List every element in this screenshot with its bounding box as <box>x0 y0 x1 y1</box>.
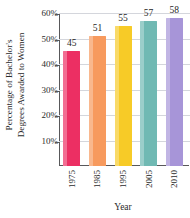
bar-highlight <box>140 21 144 166</box>
bar-value-label: 45 <box>60 39 84 49</box>
bar-chart: Percentage of Bachelor's Degrees Awarded… <box>0 0 190 218</box>
x-axis-tick-label: 2005 <box>143 170 154 204</box>
bar <box>89 36 106 166</box>
bar-value-label: 57 <box>137 9 161 19</box>
bar <box>63 51 80 166</box>
bar-highlight <box>63 51 67 166</box>
y-axis-tick-labels: 10%20%30%40%50%60% <box>28 0 58 175</box>
bar-highlight <box>89 36 93 166</box>
y-axis-tick-label: 50% <box>30 34 58 43</box>
x-axis-title: Year <box>59 203 187 213</box>
y-axis-tick-label: 30% <box>30 85 58 94</box>
bar-value-label: 58 <box>162 6 186 16</box>
bar <box>115 26 132 166</box>
bar-highlight <box>166 18 170 166</box>
y-axis-tick-label: 10% <box>30 136 58 145</box>
bar-value-label: 55 <box>111 14 135 24</box>
bar-value-label: 51 <box>85 24 109 34</box>
y-axis-tick-label: 60% <box>30 9 58 18</box>
y-axis-title-line-2: Degrees Awarded to Women <box>17 33 26 138</box>
x-axis-tick-label: 2010 <box>169 170 180 204</box>
x-axis-tick-label: 1975 <box>66 170 77 204</box>
bar <box>166 18 183 166</box>
y-axis-tick-label: 40% <box>30 60 58 69</box>
plot-area: 4551555758 <box>59 8 187 166</box>
y-axis-title-line-1: Percentage of Bachelor's <box>5 40 14 131</box>
x-axis-tick-labels: 19751985199520052010 <box>59 170 187 204</box>
bar <box>140 21 157 166</box>
bar-highlight <box>115 26 119 166</box>
y-axis-tick-label: 20% <box>30 111 58 120</box>
x-axis-tick-label: 1995 <box>118 170 129 204</box>
x-axis-tick-label: 1985 <box>92 170 103 204</box>
bar-series: 4551555758 <box>59 8 187 166</box>
